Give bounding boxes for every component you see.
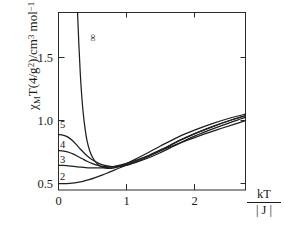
- curve-label-2: 2: [60, 171, 65, 182]
- curve-infinity: [78, 13, 246, 169]
- x-tick-label-2: 2: [191, 194, 197, 208]
- x-tick-label-0: 0: [55, 194, 61, 208]
- chart-plot-area: 0 1 2 0.5 1.0 1.5 ∞5432: [0, 0, 285, 242]
- chart-figure: 0 1 2 0.5 1.0 1.5 ∞5432 χMT(4/g2)/cm3 mo…: [0, 0, 285, 242]
- x-axis-label: kT | J |: [247, 188, 281, 217]
- y-tick-label-1-5: 1.5: [37, 51, 53, 65]
- curve-3: [59, 116, 246, 168]
- top-axis-ticks: [127, 13, 195, 18]
- x-axis-label-numerator: kT: [247, 188, 281, 202]
- y-tick-label-0-5: 0.5: [37, 177, 53, 191]
- curve-label-infinity: ∞: [87, 34, 98, 42]
- curve-label-5: 5: [60, 119, 65, 130]
- curve-label-4: 4: [60, 139, 66, 150]
- x-axis-label-denominator: | J |: [247, 202, 281, 217]
- y-tick-label-1-0: 1.0: [37, 114, 53, 128]
- x-tick-marks: [59, 184, 195, 190]
- x-tick-label-1: 1: [123, 194, 129, 208]
- curve-label-3: 3: [60, 154, 65, 165]
- curve-2: [59, 121, 246, 184]
